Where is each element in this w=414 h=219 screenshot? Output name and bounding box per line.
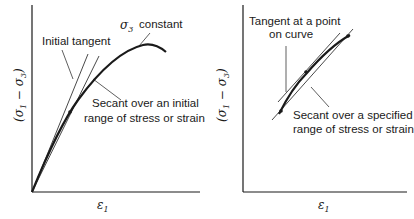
secant-point-lower	[279, 109, 283, 113]
secant-line-right	[272, 29, 353, 120]
sigma3-constant-label: constant	[139, 18, 183, 30]
secant-label-right-2: range of stress or strain	[293, 123, 414, 135]
right-x-axis-label: ε1	[318, 198, 330, 214]
secant-point-left	[68, 110, 72, 114]
initial-tangent-leader	[62, 50, 73, 79]
svg-text:(σ1 − σ3): (σ1 − σ3)	[12, 68, 28, 122]
initial-tangent-line	[32, 54, 88, 192]
secant-label-left-2: range of stress or strain	[84, 112, 205, 124]
left-y-axis-label: (σ1 − σ3)	[12, 68, 28, 122]
secant-line-left	[32, 56, 99, 192]
tangent-label-1: Tangent at a point	[249, 15, 341, 27]
secant-label-left-1: Secant over an initial	[92, 97, 199, 109]
right-diagram: Tangent at a point on curve Secant over …	[215, 5, 414, 214]
sigma3-symbol: σ3	[120, 18, 133, 34]
stress-strain-diagrams: σ3 constant Initial tangent Secant over …	[0, 0, 414, 219]
right-stress-strain-curve	[279, 35, 350, 114]
secant-leader-right	[311, 87, 329, 107]
right-y-axis-label: (σ1 − σ3)	[215, 68, 231, 122]
tangent-point	[304, 70, 308, 74]
initial-tangent-label: Initial tangent	[42, 35, 111, 47]
secant-label-right-1: Secant over a specified	[293, 109, 413, 121]
left-x-axis-label: ε1	[97, 198, 109, 214]
secant-point-upper	[346, 34, 350, 38]
left-diagram: σ3 constant Initial tangent Secant over …	[12, 5, 205, 214]
svg-text:(σ1 − σ3): (σ1 − σ3)	[215, 68, 231, 122]
tangent-at-point-line	[278, 33, 340, 102]
tangent-label-2: on curve	[269, 28, 313, 40]
